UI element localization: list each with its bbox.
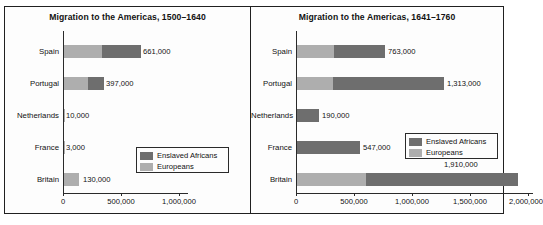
value-label-left-france: 3,000 — [66, 143, 85, 152]
chart-panel-1500-1640: Migration to the Americas, 1500–1640 0 5… — [5, 7, 251, 213]
legend-item-europeans: Europeans — [409, 147, 493, 158]
x-tick-right-1 — [354, 193, 355, 196]
category-label-left-netherlands: Netherlands — [5, 111, 59, 120]
legend-item-enslaved-africans: Enslaved Africans — [140, 150, 224, 161]
x-tick-right-3 — [470, 193, 471, 196]
x-tick-left-1 — [121, 193, 122, 196]
bar-row-right-portugal — [297, 77, 534, 90]
bar-segment-europeans — [64, 141, 65, 154]
legend-label-europeans: Europeans — [426, 148, 463, 158]
value-label-right-britain: 1,910,000 — [444, 160, 478, 169]
value-label-right-france: 547,000 — [363, 143, 390, 152]
x-tick-right-0 — [296, 193, 297, 196]
x-tick-label-left-0: 0 — [61, 197, 65, 206]
x-tick-label-left-2: 1,000,000 — [162, 197, 196, 206]
category-label-left-portugal: Portugal — [5, 79, 59, 88]
bar-segment-enslaved-africans — [333, 77, 444, 90]
legend-left: Enslaved Africans Europeans — [136, 147, 229, 173]
legend-label-enslaved-africans: Enslaved Africans — [426, 137, 486, 147]
x-axis-line-left — [63, 193, 188, 194]
category-label-right-spain: Spain — [251, 47, 292, 56]
bar-row-right-spain — [297, 45, 534, 58]
legend-swatch-europeans-icon — [409, 149, 422, 157]
x-tick-label-right-2: 1,000,000 — [395, 197, 429, 206]
value-label-left-netherlands: 10,000 — [66, 111, 89, 120]
legend-right: Enslaved Africans Europeans — [405, 133, 498, 159]
x-tick-label-right-1: 500,000 — [340, 197, 367, 206]
bar-segment-europeans — [64, 77, 88, 90]
bar-segment-europeans — [64, 109, 65, 122]
x-tick-left-2 — [179, 193, 180, 196]
value-label-left-portugal: 397,000 — [106, 79, 133, 88]
bar-segment-enslaved-africans — [334, 45, 385, 58]
bar-segment-europeans — [297, 45, 334, 58]
bar-segment-enslaved-africans — [297, 141, 360, 154]
bar-segment-europeans — [64, 173, 79, 186]
value-label-left-britain: 130,000 — [83, 175, 110, 184]
x-tick-right-4 — [528, 193, 529, 196]
legend-item-enslaved-africans: Enslaved Africans — [409, 136, 493, 147]
bar-segment-europeans — [297, 173, 366, 186]
bar-segment-europeans — [297, 77, 333, 90]
chart-panel-1641-1760: Migration to the Americas, 1641–1760 0 5… — [251, 7, 503, 213]
x-tick-label-right-3: 1,500,000 — [453, 197, 487, 206]
legend-swatch-europeans-icon — [140, 163, 153, 171]
bar-segment-enslaved-africans — [88, 77, 105, 90]
bar-segment-enslaved-africans — [366, 173, 518, 186]
panel-title-left: Migration to the Americas, 1500–1640 — [5, 12, 250, 22]
value-label-left-spain: 661,000 — [143, 47, 170, 56]
category-label-left-spain: Spain — [5, 47, 59, 56]
category-label-right-britain: Britain — [251, 175, 292, 184]
value-label-right-spain: 763,000 — [388, 47, 415, 56]
category-label-left-britain: Britain — [5, 175, 59, 184]
value-label-right-netherlands: 190,000 — [322, 111, 349, 120]
panel-title-right: Migration to the Americas, 1641–1760 — [251, 12, 503, 22]
x-tick-left-0 — [63, 193, 64, 196]
legend-label-enslaved-africans: Enslaved Africans — [157, 151, 217, 161]
category-label-right-france: France — [251, 143, 292, 152]
chart-panels-container: Migration to the Americas, 1500–1640 0 5… — [4, 6, 504, 214]
x-tick-label-right-0: 0 — [294, 197, 298, 206]
legend-item-europeans: Europeans — [140, 161, 224, 172]
x-tick-label-right-4: 2,000,000 — [509, 197, 543, 206]
x-axis-line-right — [296, 193, 533, 194]
legend-label-europeans: Europeans — [157, 162, 194, 172]
bar-row-right-britain — [297, 173, 534, 186]
bar-segment-enslaved-africans — [102, 45, 141, 58]
category-label-left-france: France — [5, 143, 59, 152]
value-label-right-portugal: 1,313,000 — [447, 79, 481, 88]
bar-segment-europeans — [64, 45, 102, 58]
category-label-right-netherlands: Netherlands — [251, 111, 292, 120]
x-tick-right-2 — [412, 193, 413, 196]
legend-swatch-enslaved-africans-icon — [140, 152, 153, 160]
legend-swatch-enslaved-africans-icon — [409, 138, 422, 146]
x-tick-label-left-1: 500,000 — [107, 197, 134, 206]
category-label-right-portugal: Portugal — [251, 79, 292, 88]
bar-segment-enslaved-africans — [297, 109, 319, 122]
